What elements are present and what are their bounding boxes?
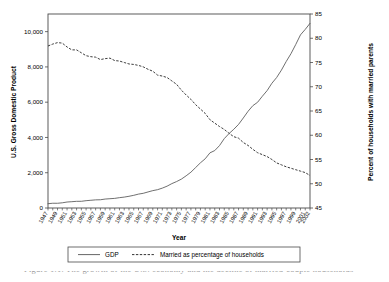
figure-caption: Figure 1.1. The growth of the U.S. econo… (24, 271, 353, 274)
legend-label-gdp: GDP (105, 251, 119, 258)
legend: GDP Married as percentage of households (68, 247, 300, 262)
y-left-tick-label: 2,000 (28, 169, 44, 176)
y-right-tick-label: 80 (315, 34, 322, 41)
y-left-tick-label: 6,000 (28, 98, 44, 105)
x-axis-title: Year (172, 234, 186, 241)
y-right-tick-label: 60 (315, 131, 322, 138)
legend-label-married: Married as percentage of households (160, 251, 264, 259)
y-right-tick-label: 55 (315, 156, 322, 163)
y-right-tick-label: 75 (315, 59, 322, 66)
y-right-tick-label: 70 (315, 83, 322, 90)
y-axis-left-title: U.S. Gross Domestic Product (10, 65, 17, 158)
series-line-married (48, 43, 310, 176)
plot-frame-group (48, 14, 310, 208)
chart-canvas: 02,0004,0006,0008,00010,000 455055606570… (0, 0, 389, 282)
y-axis-right-title: Percent of households with married paren… (367, 43, 375, 181)
x-axis-ticks: 1947194919511953195519571959196119631965… (37, 208, 310, 224)
y-right-tick-label: 65 (315, 107, 322, 114)
series-line-gdp (48, 23, 310, 203)
y-right-tick-label: 50 (315, 180, 322, 187)
caption-strip: Figure 1.1. The growth of the U.S. econo… (0, 271, 389, 282)
y-right-tick-label: 85 (315, 10, 322, 17)
y-axis-left-ticks: 02,0004,0006,0008,00010,000 (24, 28, 48, 211)
y-axis-right-ticks: 455055606570758085 (310, 10, 322, 211)
y-left-tick-label: 10,000 (24, 28, 43, 35)
y-left-tick-label: 4,000 (28, 134, 44, 141)
y-left-tick-label: 8,000 (28, 63, 44, 70)
plot-frame (48, 14, 310, 208)
figure-container: 02,0004,0006,0008,00010,000 455055606570… (0, 0, 389, 282)
y-right-tick-label: 45 (315, 204, 322, 211)
